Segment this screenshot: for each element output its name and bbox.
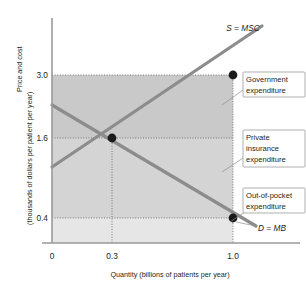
chart-figure: 3.0 1.6 0.4 0 0.3 1.0 Price and cost (th… <box>0 0 306 290</box>
point-equilibrium <box>108 134 117 143</box>
xtick-label-0: 0 <box>50 251 55 261</box>
y-axis-title-line1: Price and cost <box>15 46 24 92</box>
y-axis-title-line2: (thousands of dollars per patient per ye… <box>25 92 34 225</box>
point-supply-at-1.0 <box>229 71 238 80</box>
xtick-label-1.0: 1.0 <box>227 251 239 261</box>
callout-private-line1: Private <box>246 133 270 142</box>
callout-private-line2: insurance <box>246 144 279 153</box>
ytick-label-0.4: 0.4 <box>36 213 48 223</box>
callout-government-line1: Government <box>246 75 289 84</box>
callout-oop-line2: expenditure <box>246 202 286 211</box>
region-out-of-pocket-expenditure <box>52 218 233 243</box>
supply-curve-label: S = MSC <box>226 23 260 33</box>
health-care-expenditure-chart: 3.0 1.6 0.4 0 0.3 1.0 Price and cost (th… <box>0 0 306 290</box>
callout-private-line3: expenditure <box>246 155 286 164</box>
demand-curve-label: D = MB <box>258 223 286 233</box>
callout-oop-line1: Out-of-pocket <box>246 191 293 200</box>
ytick-label-3.0: 3.0 <box>36 70 48 80</box>
ytick-label-1.6: 1.6 <box>36 133 48 143</box>
xtick-label-0.3: 0.3 <box>106 251 118 261</box>
x-axis-title: Quantity (billions of patients per year) <box>110 270 229 279</box>
callout-government-line2: expenditure <box>246 86 286 95</box>
